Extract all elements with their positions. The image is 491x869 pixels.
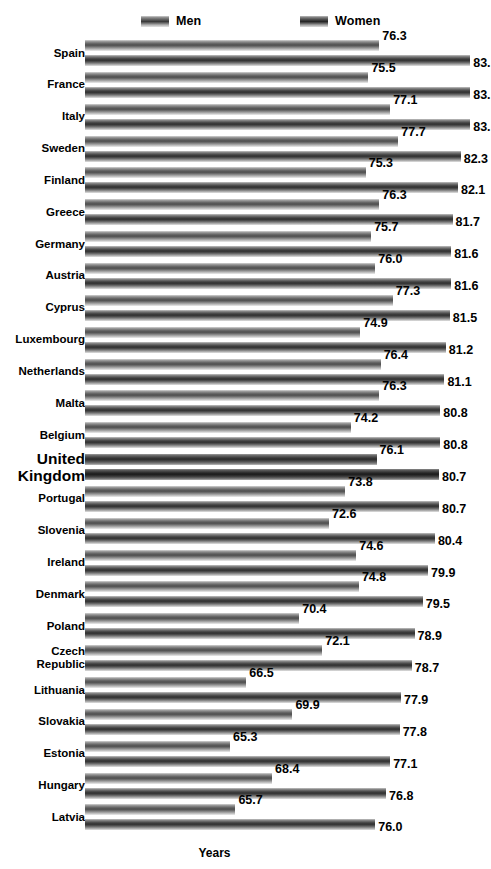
bar-group-row: Slovakia69.977.8 (0, 709, 417, 735)
x-axis-title: Years (0, 846, 417, 860)
category-label: Cyprus (0, 301, 85, 314)
bar-women (85, 819, 375, 830)
bar-fill-women (85, 405, 440, 416)
bar-women (85, 596, 423, 607)
bar-fill-men (85, 773, 272, 784)
legend-item-women: Women (300, 9, 380, 33)
legend-item-men: Men (141, 9, 201, 33)
bar-value-label-women: 79.9 (431, 567, 455, 579)
bar-value-label-men: 77.1 (393, 94, 417, 106)
category-label: Luxembourg (0, 333, 85, 346)
bar-fill-men (85, 486, 345, 497)
bar-value-label-men: 65.7 (238, 794, 262, 806)
bar-value-label-men: 77.3 (396, 285, 420, 297)
bar-women (85, 692, 401, 703)
bar-men (85, 486, 345, 497)
bar-value-label-men: 72.1 (325, 635, 349, 647)
bar-men (85, 741, 230, 752)
bar-group-row: Italy77.183. (0, 104, 417, 130)
category-label: Netherlands (0, 365, 85, 378)
bar-men (85, 677, 246, 688)
bar-value-label-women: 82.3 (464, 153, 488, 165)
bar-fill-men (85, 263, 375, 274)
bar-fill-women (85, 151, 461, 162)
bar-fill-women (85, 501, 439, 512)
category-label: Czech Republic (0, 645, 85, 671)
bar-fill-men (85, 741, 230, 752)
bar-value-label-women: 78.9 (418, 630, 442, 642)
category-label: Denmark (0, 588, 85, 601)
bar-women (85, 469, 439, 480)
category-label: Belgium (0, 429, 85, 442)
bar-value-label-men: 75.5 (371, 62, 395, 74)
bar-group-row: Germany75.781.6 (0, 231, 417, 257)
category-label: Spain (0, 47, 85, 60)
bar-women (85, 756, 390, 767)
bar-fill-women (85, 692, 401, 703)
bar-fill-men (85, 518, 329, 529)
category-label: Slovakia (0, 715, 85, 728)
category-label: Poland (0, 620, 85, 633)
bar-fill-women (85, 628, 415, 639)
bar-value-label-men: 74.8 (362, 571, 386, 583)
bar-group-row: Ireland74.679.9 (0, 550, 417, 576)
bar-value-label-men: 76.1 (380, 444, 404, 456)
bar-fill-men (85, 581, 359, 592)
bar-men (85, 581, 359, 592)
category-label: France (0, 78, 85, 91)
bar-value-label-women: 83. (473, 121, 490, 133)
bar-group-row: Sweden77.782.3 (0, 136, 417, 162)
bar-group-row: Netherlands76.481.1 (0, 359, 417, 385)
bar-fill-men (85, 454, 377, 465)
chart-legend: Men Women (0, 9, 417, 33)
bar-group-row: Spain76.383. (0, 40, 417, 66)
bar-men (85, 40, 379, 51)
bar-value-label-men: 66.5 (249, 667, 273, 679)
bar-group-row: Hungary68.476.8 (0, 773, 417, 799)
bar-value-label-men: 76.3 (382, 380, 406, 392)
category-label: Portugal (0, 492, 85, 505)
bar-women (85, 405, 440, 416)
bar-fill-men (85, 390, 379, 401)
bar-group-row: Belgium74.280.8 (0, 422, 417, 448)
bar-men (85, 167, 366, 178)
bar-men (85, 231, 371, 242)
bar-women (85, 788, 386, 799)
legend-swatch-men-icon (141, 16, 169, 27)
bar-group-row: Cyprus77.381.5 (0, 295, 417, 321)
bar-value-label-women: 76.8 (389, 790, 413, 802)
bar-fill-men (85, 295, 393, 306)
bar-value-label-women: 83. (473, 89, 490, 101)
bar-women (85, 628, 415, 639)
bar-men (85, 454, 377, 465)
bar-group-row: France75.583. (0, 72, 417, 98)
category-label: Italy (0, 110, 85, 123)
bar-value-label-men: 72.6 (332, 508, 356, 520)
bar-women (85, 310, 450, 321)
bar-group-row: Poland70.478.9 (0, 613, 417, 639)
bar-value-label-women: 80.7 (442, 471, 466, 483)
bar-value-label-women: 76.0 (378, 821, 402, 833)
bar-men (85, 263, 375, 274)
bar-fill-men (85, 104, 390, 115)
bar-women (85, 501, 439, 512)
plot-area: Spain76.383.France75.583.Italy77.183.Swe… (0, 38, 417, 834)
bar-men (85, 72, 368, 83)
bar-value-label-men: 65.3 (233, 731, 257, 743)
bar-value-label-women: 80.7 (442, 503, 466, 515)
bar-fill-men (85, 40, 379, 51)
bar-women (85, 55, 470, 66)
bar-value-label-men: 76.4 (384, 349, 408, 361)
category-label: Estonia (0, 747, 85, 760)
bar-value-label-men: 77.7 (401, 126, 425, 138)
bar-value-label-women: 80.8 (443, 439, 467, 451)
bar-value-label-men: 70.4 (302, 603, 326, 615)
bar-value-label-women: 81.2 (449, 344, 473, 356)
bar-men (85, 613, 299, 624)
bar-fill-women (85, 596, 423, 607)
bar-men (85, 390, 379, 401)
bar-fill-men (85, 136, 398, 147)
bar-men (85, 550, 356, 561)
bar-group-row: Slovenia72.680.4 (0, 518, 417, 544)
category-label: United Kingdom (0, 450, 85, 484)
